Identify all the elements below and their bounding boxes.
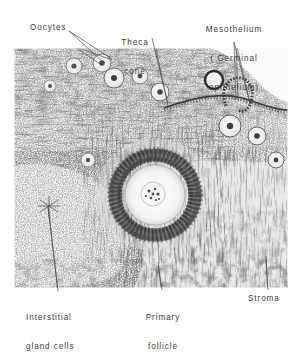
label-mesothelium-line1: Mesothelium: [188, 25, 280, 35]
leader-oocytes-2: [69, 31, 112, 59]
label-theca-cone-line1: Theca: [114, 38, 156, 48]
leader-oocytes-1: [69, 31, 103, 62]
leader-primary-follicle: [158, 262, 162, 290]
label-oocytes: Oocytes: [30, 23, 66, 33]
label-primary-follicle-line1: Primary: [136, 313, 190, 323]
label-primary-follicle: Primary follicle: [136, 294, 190, 355]
label-primary-follicle-line2: follicle: [136, 342, 190, 352]
label-interstitial-line1: Interstitial: [26, 313, 75, 323]
label-theca-cone: Theca cone: [114, 19, 156, 96]
label-interstitial-line2: gland cells: [26, 342, 75, 352]
label-interstitial-gland-cells: Interstitial gland cells: [26, 294, 75, 355]
label-mesothelium-line3: epithelium): [188, 83, 280, 93]
label-mesothelium-line2: ( Germinal: [188, 54, 280, 64]
leader-interstitial: [48, 206, 58, 291]
label-mesothelium: Mesothelium ( Germinal epithelium): [188, 6, 280, 112]
label-stroma: Stroma: [248, 294, 280, 304]
label-theca-cone-line2: cone: [114, 67, 156, 77]
leader-stroma: [266, 256, 268, 290]
